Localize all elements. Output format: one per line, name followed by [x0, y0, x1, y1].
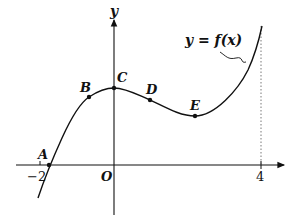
function-curve: [38, 26, 262, 198]
point-A: [47, 163, 51, 167]
label-pointer: [220, 52, 246, 62]
point-E: [193, 114, 197, 118]
y-axis-label: y: [109, 3, 119, 19]
point-C: [112, 86, 116, 90]
point-label-A: A: [36, 147, 48, 162]
origin-label: O: [101, 169, 113, 184]
graph-canvas: y O −2 4 y = f(x) A B C D E: [0, 0, 298, 224]
function-label: y = f(x): [184, 32, 242, 48]
point-label-E: E: [189, 98, 201, 113]
point-label-C: C: [117, 70, 128, 85]
point-D: [148, 98, 152, 102]
point-label-D: D: [145, 82, 158, 97]
tick-label-4: 4: [256, 169, 264, 184]
function-graph: y O −2 4 y = f(x) A B C D E: [0, 0, 298, 224]
point-label-B: B: [79, 80, 91, 95]
point-B: [87, 95, 91, 99]
